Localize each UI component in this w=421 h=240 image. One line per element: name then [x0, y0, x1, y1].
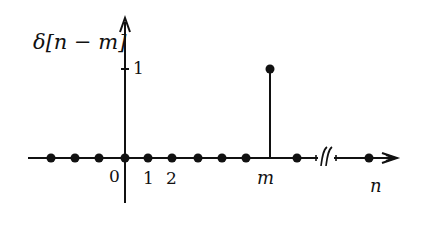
axis-break-icon	[316, 147, 336, 166]
tick-label-m: m	[257, 169, 274, 187]
tick-label-0: 0	[109, 168, 120, 185]
tick-label-1: 1	[143, 170, 154, 187]
x-axis	[28, 153, 397, 163]
tick-label-2: 2	[166, 170, 177, 187]
amplitude-label: 1	[133, 60, 144, 77]
impulse-stem	[266, 65, 275, 159]
y-axis-label: δ[n − m]	[33, 32, 126, 53]
x-axis-label: n	[370, 177, 382, 195]
